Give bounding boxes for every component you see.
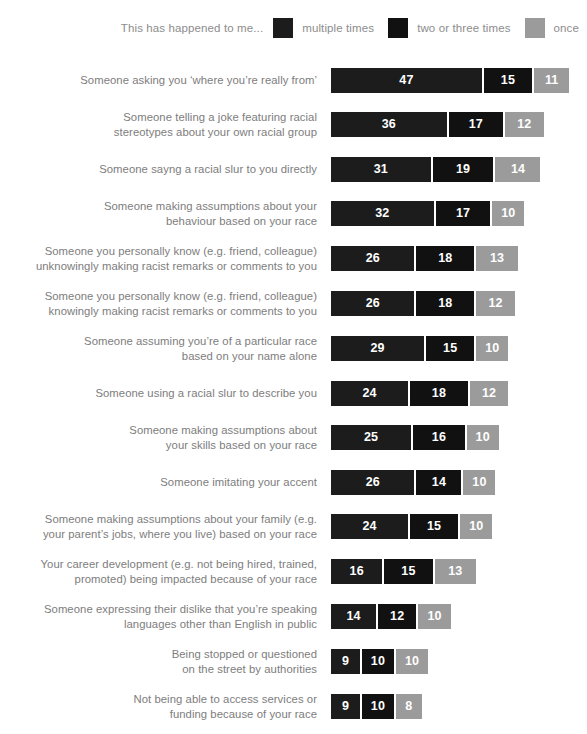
chart-bar-segment-value: 16 xyxy=(350,565,364,578)
chart-row-label-line: Someone using a racial slur to describe … xyxy=(0,386,317,401)
chart-bar-segment-value: 12 xyxy=(517,118,531,131)
chart-bar-segment-once: 10 xyxy=(476,336,508,361)
chart-bar-segment-once: 10 xyxy=(463,470,495,495)
chart-row-label-line: Your career development (e.g. not being … xyxy=(0,557,317,572)
chart-row: Someone making assumptions about your fa… xyxy=(0,504,587,549)
chart-bar-segment-multiple-times: 31 xyxy=(331,157,431,182)
chart-bar-segment-value: 9 xyxy=(342,700,349,713)
chart-row-label: Someone you personally know (e.g. friend… xyxy=(0,289,331,318)
chart-bar-segment-value: 14 xyxy=(346,610,360,623)
chart-bar-segment-value: 10 xyxy=(405,655,419,668)
chart-bar-segment-once: 13 xyxy=(476,246,518,271)
chart-bar-segment-value: 10 xyxy=(371,655,385,668)
chart-row: Someone you personally know (e.g. friend… xyxy=(0,281,587,326)
chart-bar-segment-multiple-times: 26 xyxy=(331,291,414,316)
chart-bar-segment-value: 26 xyxy=(366,476,380,489)
chart-row-label-line: Someone you personally know (e.g. friend… xyxy=(0,289,317,304)
chart-row-label: Someone assuming you’re of a particular … xyxy=(0,334,331,363)
chart-bar-segment-value: 32 xyxy=(375,207,389,220)
chart-row-label: Someone making assumptions about yourbeh… xyxy=(0,199,331,228)
chart-bar-segment-value: 18 xyxy=(438,252,452,265)
chart-bar-segment-value: 24 xyxy=(362,387,376,400)
chart-bar-segment-once: 10 xyxy=(460,514,492,539)
chart-bar-segment-value: 18 xyxy=(438,297,452,310)
chart-bar-segment-two-or-three-times: 19 xyxy=(433,157,494,182)
chart-row-label-line: promoted) being impacted because of your… xyxy=(0,572,317,587)
chart-row-label-line: on the street by authorities xyxy=(0,662,317,677)
chart-row-label-line: Someone making assumptions about xyxy=(0,423,317,438)
chart-bar-segment-multiple-times: 24 xyxy=(331,514,408,539)
chart-bar-segment-multiple-times: 26 xyxy=(331,246,414,271)
chart-bar-segment-value: 47 xyxy=(399,74,413,87)
chart-bar-segment-two-or-three-times: 15 xyxy=(384,559,432,584)
chart-bar-segment-once: 10 xyxy=(418,604,450,629)
chart-row-label: Someone making assumptions aboutyour ski… xyxy=(0,423,331,452)
chart-bar-segment-once: 12 xyxy=(470,381,509,406)
chart-bar-segment-multiple-times: 16 xyxy=(331,559,382,584)
chart-row: Being stopped or questionedon the street… xyxy=(0,639,587,684)
chart-row-label-line: Being stopped or questioned xyxy=(0,647,317,662)
chart-bar: 9108 xyxy=(331,694,422,719)
legend-item-multiple-times: multiple times xyxy=(273,18,374,38)
chart-row-label-line: your skills based on your race xyxy=(0,438,317,453)
chart-row-label: Someone expressing their dislike that yo… xyxy=(0,602,331,631)
chart-bar-segment-multiple-times: 9 xyxy=(331,694,360,719)
chart-row-label-line: stereotypes about your own racial group xyxy=(0,125,317,140)
chart-bar-segment-multiple-times: 25 xyxy=(331,425,411,450)
chart-bar-segment-value: 15 xyxy=(443,342,457,355)
legend-label-two-or-three-times: two or three times xyxy=(417,22,510,34)
chart-bar-segment-multiple-times: 32 xyxy=(331,201,434,226)
chart-bar: 161513 xyxy=(331,559,476,584)
legend-intro-text: This has happened to me... xyxy=(121,22,263,34)
chart-row-label: Someone making assumptions about your fa… xyxy=(0,512,331,541)
chart-bar-segment-value: 13 xyxy=(490,252,504,265)
chart-row-label-line: Someone making assumptions about your fa… xyxy=(0,512,317,527)
chart-bar-segment-once: 13 xyxy=(435,559,477,584)
legend-label-once: once xyxy=(554,22,579,34)
chart-row-label: Being stopped or questionedon the street… xyxy=(0,647,331,676)
chart-row-label-line: Someone asking you ‘where you’re really … xyxy=(0,73,317,88)
legend-swatch-multiple-times xyxy=(273,18,293,38)
chart-bar-segment-two-or-three-times: 17 xyxy=(436,201,491,226)
chart-row-label: Someone you personally know (e.g. friend… xyxy=(0,244,331,273)
chart-bar-segment-value: 9 xyxy=(342,655,349,668)
chart-row-label-line: Someone assuming you’re of a particular … xyxy=(0,334,317,349)
chart-bar-segment-two-or-three-times: 10 xyxy=(362,649,394,674)
chart-bar: 91010 xyxy=(331,649,428,674)
chart-bar: 261813 xyxy=(331,246,518,271)
chart-row-label-line: based on your name alone xyxy=(0,349,317,364)
chart-bar-segment-multiple-times: 14 xyxy=(331,604,376,629)
chart-bar-segment-two-or-three-times: 15 xyxy=(484,68,532,93)
legend-label-multiple-times: multiple times xyxy=(302,22,374,34)
chart-bar-segment-value: 10 xyxy=(476,431,490,444)
chart-row: Someone you personally know (e.g. friend… xyxy=(0,236,587,281)
chart-bar-segment-value: 10 xyxy=(485,342,499,355)
chart-bar-segment-two-or-three-times: 16 xyxy=(413,425,464,450)
chart-row-label: Someone imitating your accent xyxy=(0,475,331,490)
chart-row-label-line: Someone telling a joke featuring racial xyxy=(0,110,317,125)
chart-row: Someone sayng a racial slur to you direc… xyxy=(0,147,587,191)
chart-row: Someone imitating your accent261410 xyxy=(0,460,587,504)
chart-bar-segment-value: 13 xyxy=(448,565,462,578)
chart-bar-segment-value: 25 xyxy=(364,431,378,444)
chart-row-label: Your career development (e.g. not being … xyxy=(0,557,331,586)
chart-bar: 361712 xyxy=(331,112,544,137)
chart-bar-segment-two-or-three-times: 10 xyxy=(362,694,394,719)
stacked-bar-chart: This has happened to me... multiple time… xyxy=(0,0,587,734)
chart-row: Someone using a racial slur to describe … xyxy=(0,371,587,415)
chart-bar-segment-value: 10 xyxy=(469,520,483,533)
chart-bar-segment-two-or-three-times: 17 xyxy=(449,112,504,137)
chart-bar-segment-value: 10 xyxy=(501,207,515,220)
chart-bar-segment-multiple-times: 9 xyxy=(331,649,360,674)
chart-bar-segment-value: 15 xyxy=(401,565,415,578)
chart-bar-segment-value: 17 xyxy=(456,207,470,220)
chart-bar-segment-value: 14 xyxy=(432,476,446,489)
chart-row-label-line: Someone you personally know (e.g. friend… xyxy=(0,244,317,259)
legend-swatch-two-or-three-times xyxy=(388,18,408,38)
chart-bar: 471511 xyxy=(331,68,569,93)
chart-rows: Someone asking you ‘where you’re really … xyxy=(0,58,587,729)
chart-bar-segment-value: 31 xyxy=(374,163,388,176)
chart-bar-segment-value: 10 xyxy=(472,476,486,489)
chart-row: Someone making assumptions aboutyour ski… xyxy=(0,415,587,460)
chart-bar-segment-once: 10 xyxy=(492,201,524,226)
